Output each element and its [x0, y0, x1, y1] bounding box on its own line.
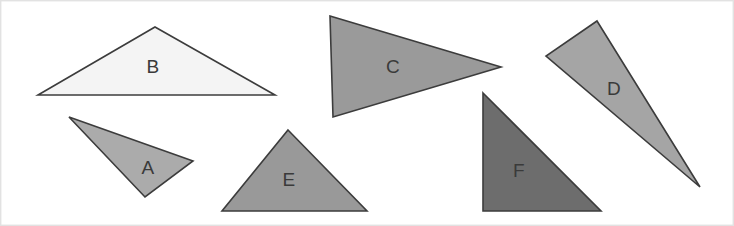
triangle-f-shape[interactable] — [483, 93, 601, 211]
triangle-a-shape[interactable] — [69, 117, 193, 197]
triangle-b-label: B — [147, 56, 160, 77]
triangle-c-shape[interactable] — [330, 16, 501, 117]
triangle-e-label: E — [283, 169, 296, 190]
shape-group-c[interactable]: C — [330, 16, 501, 117]
shape-group-b[interactable]: B — [38, 27, 275, 95]
shape-group-f[interactable]: F — [483, 93, 601, 211]
triangles-svg: A B C D E F — [0, 0, 734, 226]
triangle-f-label: F — [513, 160, 525, 181]
triangle-d-shape[interactable] — [546, 21, 700, 187]
triangle-d-label: D — [607, 78, 621, 99]
shape-group-e[interactable]: E — [222, 130, 367, 211]
figure-canvas: A B C D E F — [0, 0, 734, 226]
shape-group-d[interactable]: D — [546, 21, 700, 187]
triangle-a-label: A — [142, 157, 155, 178]
triangle-c-label: C — [386, 56, 400, 77]
shape-group-a[interactable]: A — [69, 117, 193, 197]
